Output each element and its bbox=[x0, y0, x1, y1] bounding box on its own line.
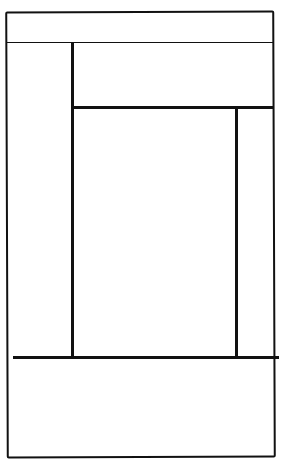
right-panel-region bbox=[238, 109, 274, 357]
sidebar-region bbox=[8, 43, 74, 357]
footer-region bbox=[8, 359, 274, 457]
header-region bbox=[7, 12, 274, 43]
top-panel-region bbox=[74, 43, 274, 109]
main-content-region bbox=[74, 109, 238, 357]
